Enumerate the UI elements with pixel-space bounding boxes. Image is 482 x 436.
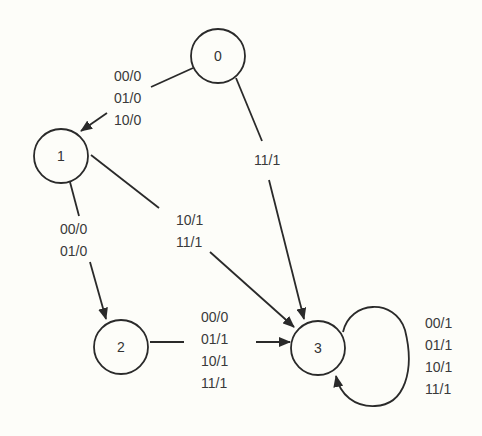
edge-3-self-loop: 00/1 01/1 10/1 11/1 — [336, 307, 452, 406]
edge-label: 11/1 — [176, 234, 202, 250]
state-node-2: 2 — [94, 320, 148, 374]
edge-label: 00/0 — [114, 68, 141, 84]
edge-label: 01/1 — [425, 337, 452, 353]
edge-label: 11/1 — [201, 375, 227, 391]
edge-label: 11/1 — [425, 381, 451, 397]
state-node-3: 3 — [291, 321, 345, 375]
state-node-1: 1 — [34, 129, 88, 183]
edge-label: 10/1 — [176, 212, 203, 228]
edge-0-to-1: 00/0 01/0 10/0 — [81, 68, 193, 131]
state-label: 0 — [214, 48, 222, 64]
edge-0-to-3: 11/1 — [236, 78, 304, 319]
state-label: 3 — [314, 340, 322, 356]
edge-label: 11/1 — [254, 152, 280, 168]
edge-label: 10/1 — [425, 359, 452, 375]
edge-label: 10/1 — [201, 353, 228, 369]
state-label: 1 — [57, 148, 65, 164]
edge-1-to-2: 00/0 01/0 — [60, 182, 106, 319]
edge-label: 01/1 — [201, 331, 228, 347]
edge-label: 00/0 — [60, 221, 87, 237]
edge-label: 01/0 — [60, 243, 87, 259]
edge-label: 10/0 — [114, 112, 141, 128]
edge-1-to-3: 10/1 11/1 — [91, 155, 294, 327]
edge-label: 00/0 — [201, 309, 228, 325]
state-diagram: 00/0 01/0 10/0 11/1 00/0 01/0 10/1 11/1 … — [0, 0, 482, 436]
edge-label: 01/0 — [114, 90, 141, 106]
state-label: 2 — [117, 339, 125, 355]
edge-2-to-3: 00/0 01/1 10/1 11/1 — [150, 309, 290, 391]
edge-label: 00/1 — [425, 315, 452, 331]
state-node-0: 0 — [191, 29, 245, 83]
